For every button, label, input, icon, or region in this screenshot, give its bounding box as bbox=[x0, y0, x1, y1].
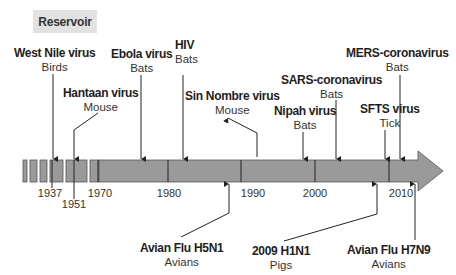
year-1980: 1980 bbox=[157, 187, 181, 199]
year-1990: 1990 bbox=[241, 187, 265, 199]
event-sin-nombre: Sin Nombre virus Mouse bbox=[185, 89, 280, 117]
year-2000: 2000 bbox=[303, 187, 327, 199]
event-hiv: HIV Bats bbox=[175, 38, 198, 66]
event-ebola: Ebola virus Bats bbox=[111, 47, 172, 75]
event-h7n9: Avian Flu H7N9 Avians bbox=[347, 243, 430, 271]
event-sfts: SFTS virus Tick bbox=[360, 102, 420, 130]
year-1970: 1970 bbox=[88, 187, 112, 199]
year-2010: 2010 bbox=[389, 187, 413, 199]
event-mers: MERS-coronavirus Bats bbox=[346, 46, 449, 74]
year-1951: 1951 bbox=[62, 198, 86, 210]
timeline-graphics bbox=[0, 0, 456, 275]
event-west-nile: West Nile virus Birds bbox=[14, 46, 95, 74]
event-h5n1: Avian Flu H5N1 Avians bbox=[140, 241, 223, 269]
event-nipah: Nipah virus Bats bbox=[274, 104, 336, 132]
timeline-diagram: Reservoir bbox=[0, 0, 456, 275]
year-1937: 1937 bbox=[38, 187, 62, 199]
event-sars: SARS-coronavirus Bats bbox=[281, 73, 382, 101]
timeline-arrow bbox=[99, 151, 443, 191]
event-h1n1: 2009 H1N1 Pigs bbox=[252, 244, 310, 272]
event-hantaan: Hantaan virus Mouse bbox=[63, 86, 138, 114]
early-segments bbox=[23, 160, 99, 182]
